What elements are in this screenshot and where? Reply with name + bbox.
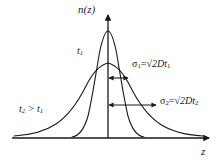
figure-canvas — [0, 0, 220, 162]
curve-label-t1: t1 — [77, 46, 83, 57]
sigma1-label: σ1=√2Dt1 — [132, 59, 170, 70]
diffusion-gaussian-figure: n(z) z t1 t2 > t1 σ1=√2Dt1 σ2=√2Dt2 — [0, 0, 220, 162]
x-axis-label: z — [201, 146, 205, 157]
comparison-label: t2 > t1 — [19, 104, 43, 115]
y-axis-label: n(z) — [78, 4, 95, 15]
sigma2-label: σ2=√2Dt2 — [160, 96, 198, 107]
